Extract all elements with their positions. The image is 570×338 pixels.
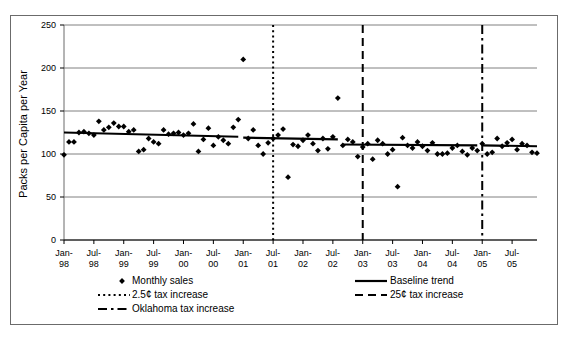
data-point [215, 134, 221, 140]
data-point [255, 143, 261, 149]
data-point [280, 126, 286, 132]
legend-label: 2.5¢ tax increase [132, 289, 208, 300]
data-point [499, 143, 505, 149]
data-point [484, 151, 490, 157]
monthly-sales-points [61, 57, 540, 190]
data-point [509, 136, 515, 142]
y-tick-label: 100 [26, 149, 56, 159]
axes [64, 25, 537, 240]
data-point [375, 137, 381, 143]
data-point [210, 143, 216, 149]
data-point [454, 143, 460, 149]
data-point [235, 117, 241, 123]
baseline-trend-line [64, 133, 537, 147]
y-tick-label: 150 [26, 106, 56, 116]
data-point [390, 147, 396, 153]
data-point [265, 140, 271, 146]
data-point [290, 142, 296, 148]
data-point [295, 143, 301, 149]
legend-marker-diamond [119, 278, 125, 284]
data-point [355, 154, 361, 160]
data-point [76, 130, 82, 136]
data-point [166, 131, 172, 137]
data-point [345, 136, 351, 142]
data-point [425, 148, 431, 154]
gridlines [64, 25, 537, 240]
data-point [146, 136, 152, 142]
data-point [156, 141, 162, 147]
y-axis-title: Packs per Capita per Year [17, 64, 29, 204]
data-point [61, 152, 67, 158]
data-point [225, 141, 231, 147]
data-point [141, 147, 147, 153]
data-point [444, 150, 450, 156]
data-point [524, 143, 530, 149]
monthly-sales-chart [0, 0, 570, 338]
data-point [230, 124, 236, 130]
data-point [400, 135, 406, 141]
data-point [191, 121, 197, 127]
data-point [405, 143, 411, 149]
data-point [101, 127, 107, 133]
data-point [310, 141, 316, 147]
data-point [205, 125, 211, 131]
data-point [161, 127, 167, 133]
data-point [111, 120, 117, 126]
data-point [86, 130, 92, 136]
data-point [494, 136, 500, 142]
data-point [335, 95, 341, 101]
data-point [121, 124, 127, 130]
legend-label: 25¢ tax increase [390, 289, 463, 300]
data-point [181, 132, 187, 138]
data-point [260, 151, 266, 157]
data-point [325, 146, 331, 152]
data-point [201, 136, 207, 142]
y-tick-label: 50 [26, 192, 56, 202]
data-point [275, 132, 281, 138]
y-tick-label: 0 [26, 235, 56, 245]
y-tick-label: 250 [26, 20, 56, 30]
data-point [245, 136, 251, 142]
data-point [514, 147, 520, 153]
data-point [534, 150, 540, 156]
data-point [96, 118, 102, 124]
legend-label: Monthly sales [132, 275, 193, 286]
legend-label: Oklahoma tax increase [132, 303, 234, 314]
data-point [270, 136, 276, 142]
data-point [459, 149, 465, 155]
data-point [106, 124, 112, 130]
data-point [151, 139, 157, 145]
data-point [71, 139, 77, 145]
data-point [285, 174, 291, 180]
x-tick-label: Jul-05 [495, 248, 529, 269]
data-point [385, 151, 391, 157]
data-point [320, 136, 326, 142]
data-point [440, 151, 446, 157]
data-point [474, 148, 480, 154]
y-tick-label: 200 [26, 63, 56, 73]
data-point [395, 184, 401, 190]
legend-label: Baseline trend [390, 275, 454, 286]
data-point [435, 151, 441, 157]
data-point [131, 127, 137, 133]
data-point [250, 127, 256, 133]
data-point [220, 137, 226, 143]
data-point [116, 124, 122, 130]
data-point [240, 57, 246, 63]
data-point [370, 156, 376, 162]
data-point [196, 149, 202, 155]
data-point [340, 143, 346, 149]
data-point [315, 148, 321, 154]
event-vertical-lines [273, 25, 482, 240]
data-point [136, 149, 142, 155]
data-point [66, 139, 72, 145]
data-point [305, 132, 311, 138]
data-point [464, 152, 470, 158]
